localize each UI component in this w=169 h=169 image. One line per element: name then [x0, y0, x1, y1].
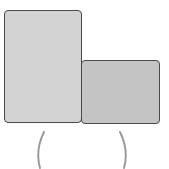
- parentheses-group: [0, 0, 169, 169]
- left-parenthesis: [38, 132, 44, 168]
- right-parenthesis: [120, 132, 126, 168]
